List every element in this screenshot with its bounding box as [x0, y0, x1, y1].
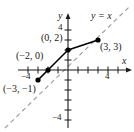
point-label-neg2-0: (−2, 0): [16, 51, 43, 61]
data-point-marker: [65, 47, 70, 52]
point-label-0-2: (0, 2): [41, 33, 63, 43]
reference-line-label: y = x: [91, 11, 112, 21]
data-point-marker: [45, 67, 50, 72]
y-axis-arrow-icon: [66, 13, 71, 19]
point-label-3-3: (3, 3): [100, 42, 122, 52]
graph-canvas: [0, 0, 134, 132]
data-point-marker: [35, 77, 40, 82]
x-axis-name-label: x: [122, 56, 126, 66]
x-axis-tick-label-4: 4: [105, 72, 110, 81]
x-axis-tick-label-neg4: −4: [21, 72, 31, 81]
y-axis-tick-label-neg4: −4: [52, 113, 62, 122]
y-axis-name-label: y: [58, 11, 62, 21]
y-axis-tick-label-4: 4: [58, 23, 63, 32]
graph-figure: x y −4 4 4 −4 y = x (0, 2) (3, 3) (−2, 0…: [0, 0, 134, 132]
x-axis-arrow-icon: [126, 68, 132, 73]
point-label-neg3-neg1: (−3, −1): [3, 84, 36, 94]
